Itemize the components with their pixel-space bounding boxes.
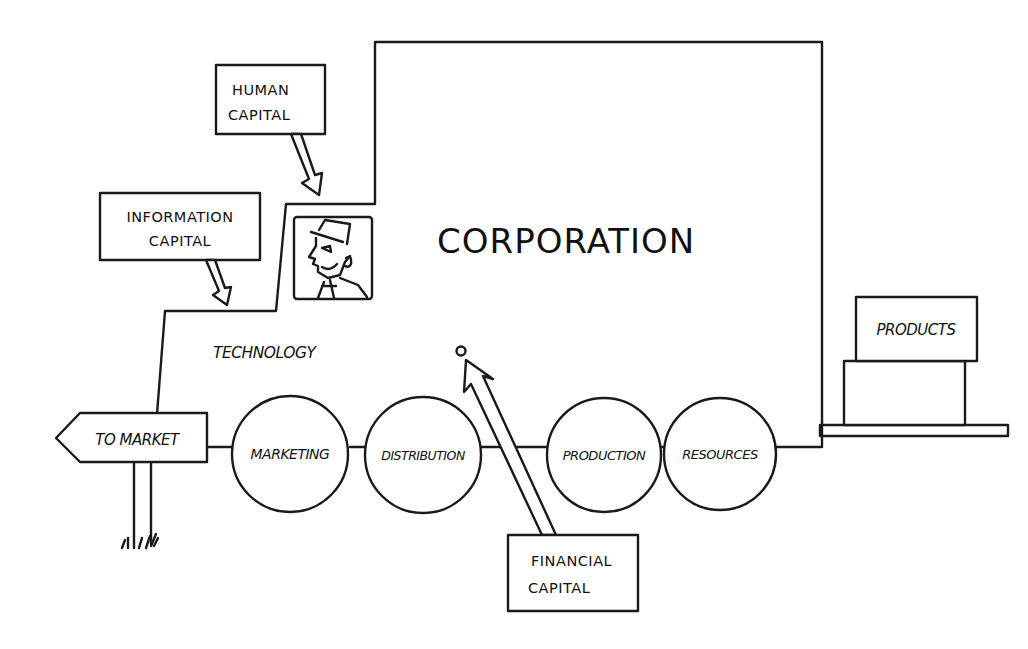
- to-market-label: TO MARKET: [95, 431, 181, 449]
- technology-label: TECHNOLOGY: [213, 344, 317, 362]
- human-portrait: [294, 217, 372, 299]
- products-lower-box: [844, 361, 965, 425]
- resources-label: RESOURCES: [682, 447, 758, 462]
- production-label: PRODUCTION: [563, 448, 646, 463]
- process-node-resources: RESOURCES: [664, 398, 776, 510]
- products-shelf: [820, 425, 1008, 436]
- svg-text:CAPITAL: CAPITAL: [149, 233, 211, 249]
- human-capital-box: [216, 65, 325, 134]
- to-market-signpost: TO MARKET: [56, 413, 207, 548]
- svg-text:FINANCIAL: FINANCIAL: [531, 553, 612, 569]
- process-node-distribution: DISTRIBUTION: [365, 397, 481, 513]
- svg-text:INFORMATION: INFORMATION: [126, 209, 233, 225]
- human-capital-callout: HUMAN CAPITAL: [216, 65, 325, 195]
- corporation-label: CORPORATION: [437, 221, 695, 261]
- distribution-label: DISTRIBUTION: [381, 448, 466, 463]
- financial-capital-box: [508, 535, 638, 611]
- svg-text:HUMAN: HUMAN: [232, 82, 289, 98]
- products-label: PRODUCTS: [877, 321, 957, 339]
- grass-icon: [122, 534, 158, 548]
- target-point-icon: [457, 347, 466, 356]
- financial-capital-callout: FINANCIAL CAPITAL: [508, 535, 638, 611]
- information-capital-callout: INFORMATION CAPITAL: [100, 193, 260, 305]
- svg-text:CAPITAL: CAPITAL: [228, 107, 290, 123]
- svg-text:CAPITAL: CAPITAL: [528, 580, 590, 596]
- marketing-label: MARKETING: [251, 446, 331, 462]
- information-capital-arrow-icon: [206, 260, 231, 305]
- human-capital-arrow-icon: [291, 134, 322, 195]
- process-node-production: PRODUCTION: [547, 398, 661, 512]
- products-box: PRODUCTS: [856, 297, 977, 361]
- process-node-marketing: MARKETING: [232, 396, 348, 512]
- corporation-diagram: PRODUCTS MARKETING DISTRIBUTION PRODUCTI…: [0, 0, 1028, 649]
- information-capital-box: [100, 193, 260, 260]
